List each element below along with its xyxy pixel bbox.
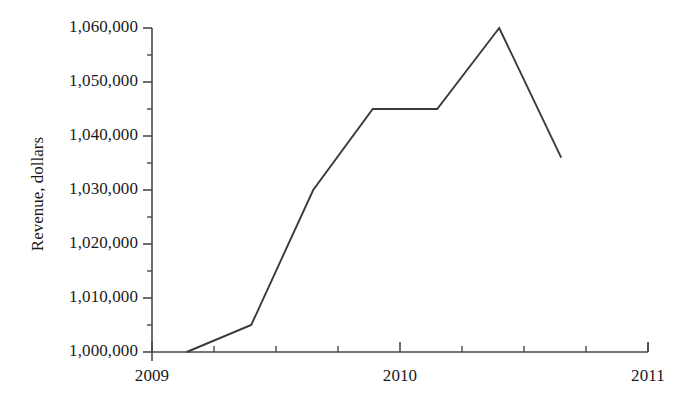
x-tick-label: 2011 bbox=[603, 366, 693, 386]
x-tick-label: 2010 bbox=[355, 366, 445, 386]
x-tick-label: 2009 bbox=[107, 366, 197, 386]
y-tick-label: 1,060,000 bbox=[69, 17, 138, 37]
y-tick-label: 1,010,000 bbox=[69, 287, 138, 307]
revenue-line-chart: 1,060,0001,050,0001,040,0001,030,0001,02… bbox=[0, 0, 694, 410]
y-tick-label: 1,050,000 bbox=[69, 71, 138, 91]
axis-lines bbox=[152, 28, 648, 352]
y-tick-label: 1,030,000 bbox=[69, 179, 138, 199]
y-tick-label: 1,040,000 bbox=[69, 125, 138, 145]
y-tick-label: 1,020,000 bbox=[69, 233, 138, 253]
axis-ticks bbox=[143, 28, 648, 361]
y-axis-title: Revenue, dollars bbox=[28, 94, 48, 294]
series-line-0 bbox=[187, 28, 561, 352]
y-tick-label: 1,000,000 bbox=[69, 341, 138, 361]
data-series-group bbox=[187, 28, 561, 352]
